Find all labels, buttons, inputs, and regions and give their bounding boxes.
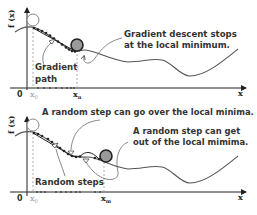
bottom-origin-label: 0: [17, 194, 23, 203]
top-x0-label: x0: [30, 90, 38, 100]
bottom-xm-label: xm: [101, 193, 112, 204]
top-annotation: Gradient descent stops: [124, 29, 237, 39]
bottom-over-leader: [71, 120, 100, 150]
gradient-descent-diagram: f (x) 0 x0 xn x Gradient descent stops a…: [0, 0, 257, 215]
top-xn-label: xn: [73, 89, 82, 100]
bottom-y-axis-label: f (x): [6, 115, 16, 134]
bottom-ball: [100, 150, 112, 162]
top-annotation-2: at the local minimum.: [124, 40, 230, 50]
bottom-random-path: [33, 132, 101, 161]
bottom-annotation-out: A random step can get: [133, 126, 240, 136]
top-y-axis-label: f (x): [6, 9, 16, 28]
top-path-marker-icon: [49, 39, 55, 44]
top-path-label: Gradient: [35, 62, 77, 72]
top-panel: f (x) 0 x0 xn x Gradient descent stops a…: [6, 8, 246, 100]
bottom-x0-label: x0: [30, 194, 38, 204]
top-x-axis-label: x: [238, 88, 243, 98]
top-ball: [71, 39, 83, 51]
bottom-annotation-out-2: out of the local mimima.: [133, 137, 248, 147]
top-path-label-2: path: [35, 74, 57, 84]
bottom-steps-leader: [56, 149, 65, 176]
bottom-annotation-over: A random step can go over the local mini…: [42, 107, 254, 117]
bottom-steps-label: Random steps: [35, 177, 104, 187]
bottom-panel: f (x) 0 x0 xm x A random step can go ove…: [6, 107, 254, 204]
top-origin-label: 0: [17, 90, 23, 99]
top-start-circle: [27, 14, 39, 26]
bottom-x-axis-label: x: [238, 192, 243, 202]
bottom-start-circle: [27, 119, 39, 131]
